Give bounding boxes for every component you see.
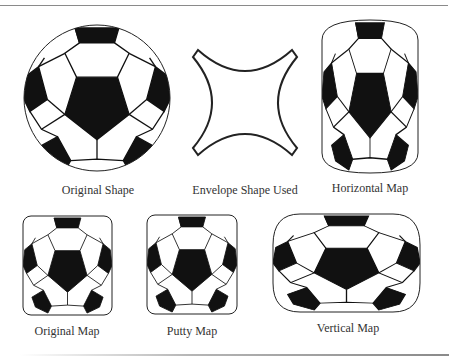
label-envelope-shape: Envelope Shape Used [192, 183, 297, 198]
label-vertical-map: Vertical Map [317, 321, 379, 336]
label-original-shape: Original Shape [62, 183, 134, 198]
label-original-map: Original Map [35, 324, 100, 339]
bottom-rule [20, 354, 449, 356]
original-map-ball [23, 216, 112, 315]
envelope-shape-outline [193, 50, 297, 155]
vertical-map-ball [273, 214, 420, 312]
figure-canvas [0, 0, 449, 357]
label-horizontal-map: Horizontal Map [332, 181, 408, 196]
putty-map-ball [147, 215, 237, 314]
original-shape-ball [24, 25, 170, 171]
label-putty-map: Putty Map [167, 324, 217, 339]
horizontal-map-ball [322, 20, 418, 173]
